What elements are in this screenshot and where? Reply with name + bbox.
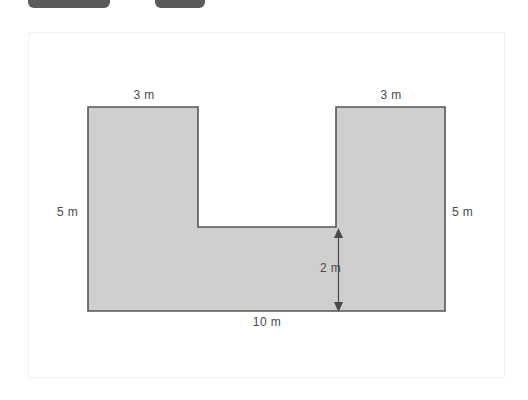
dimension-label-right-side: 5 m (452, 205, 473, 219)
geometry-figure (0, 0, 528, 400)
u-shape-polygon (88, 107, 445, 311)
dimension-label-top-left: 3 m (124, 88, 164, 102)
dimension-label-notch-depth: 2 m (320, 261, 341, 275)
dimension-label-left-side: 5 m (57, 205, 78, 219)
dimension-label-top-right: 3 m (371, 88, 411, 102)
dimension-label-bottom: 10 m (246, 315, 288, 329)
screenshot-root: 3 m 3 m 5 m 5 m 2 m 10 m (0, 0, 528, 400)
